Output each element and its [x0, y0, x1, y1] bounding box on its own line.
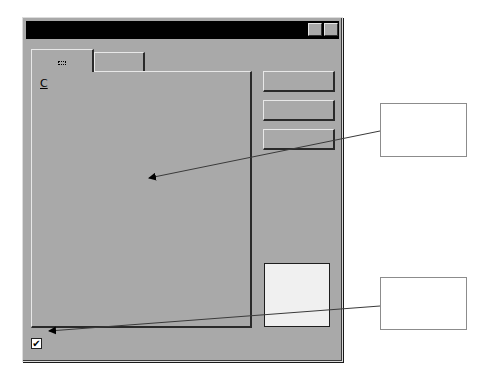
preview-button[interactable]	[263, 129, 335, 150]
cancel-button[interactable]	[263, 100, 335, 121]
tab-standard[interactable]	[31, 49, 94, 72]
semitransparent-checkbox[interactable]: ✔	[31, 338, 42, 349]
standard-colors-panel: C	[31, 71, 252, 328]
checkmark-icon: ✔	[32, 338, 40, 349]
color-preview-box	[264, 263, 330, 327]
close-button[interactable]	[324, 23, 338, 36]
callout-check-box	[380, 277, 467, 330]
help-button[interactable]	[308, 23, 322, 36]
ok-button[interactable]	[263, 71, 335, 92]
title-bar	[26, 21, 339, 39]
colors-label: C	[40, 77, 48, 90]
tab-custom[interactable]	[94, 52, 145, 71]
colors-dialog: C ✔	[22, 17, 343, 362]
callout-pick-light-color	[380, 103, 467, 157]
